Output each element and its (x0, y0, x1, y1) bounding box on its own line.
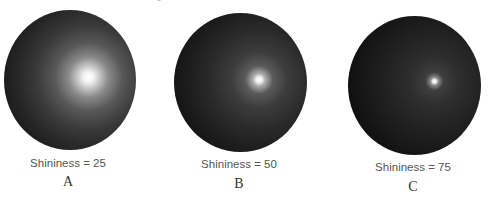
sphere-b (174, 13, 307, 152)
caption-a: Shininess = 25 (30, 157, 106, 169)
caption-b: Shininess = 50 (201, 158, 277, 170)
caption-c: Shininess = 75 (375, 161, 451, 173)
sphere-c (348, 16, 481, 155)
label-b: B (234, 176, 243, 192)
sphere-a (4, 10, 136, 150)
label-c: C (408, 179, 417, 195)
label-a: A (63, 174, 73, 190)
top-dot (157, 0, 161, 1)
